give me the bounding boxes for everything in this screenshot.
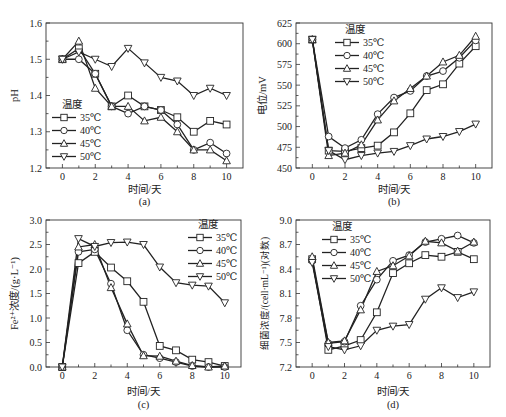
y-tick-label: 0.5 — [30, 337, 43, 348]
y-tick-label: 8.4 — [280, 264, 293, 275]
y-tick-label: 575 — [277, 59, 292, 70]
y-tick-label: 1.5 — [30, 288, 43, 299]
y-tick-label: 550 — [277, 80, 292, 91]
y-tick-label: 450 — [277, 163, 292, 174]
y-tick-label: 1.4 — [30, 90, 43, 101]
x-tick-label: 6 — [407, 370, 412, 381]
panel-b-potential-chart: 0246810450475500525550575600625时间/天电位/mV… — [256, 18, 492, 209]
square-marker-icon — [407, 110, 414, 117]
y-tick-label: 475 — [277, 142, 292, 153]
legend-label-35c: 35℃ — [350, 234, 371, 245]
x-tick-label: 0 — [310, 171, 315, 182]
triangle-down-marker-icon — [341, 157, 349, 164]
x-axis-label: 时间/天 — [377, 385, 411, 397]
square-marker-icon — [331, 236, 337, 242]
x-tick-label: 4 — [374, 370, 379, 381]
y-tick-label: 2.0 — [30, 264, 43, 275]
circle-marker-icon — [325, 133, 332, 140]
legend-title: 温度 — [345, 23, 366, 35]
panel-c-fe2-concentration-chart: 02468100.00.51.01.52.02.53.0时间/天Fe²⁺浓度/(… — [8, 215, 241, 412]
y-tick-label: 1.3 — [30, 126, 43, 137]
x-tick-label: 6 — [158, 171, 163, 182]
series-line-50c — [62, 48, 226, 95]
circle-marker-icon — [141, 103, 148, 110]
x-tick-label: 4 — [375, 171, 380, 182]
x-tick-label: 2 — [93, 171, 98, 182]
panel-caption: (a) — [139, 196, 151, 208]
triangle-down-marker-icon — [341, 347, 349, 354]
circle-marker-icon — [454, 232, 461, 239]
y-tick-label: 500 — [277, 121, 292, 132]
triangle-down-marker-icon — [190, 93, 198, 100]
legend-label-50c: 50℃ — [216, 271, 237, 282]
square-marker-icon — [75, 260, 82, 267]
figure-2x2-panels: 02468101.21.31.41.51.6时间/天pH(a)温度35℃40℃4… — [0, 0, 506, 417]
legend-label-35c: 35℃ — [216, 232, 237, 243]
legend: 温度35℃40℃45℃50℃ — [52, 98, 101, 162]
triangle-down-marker-icon — [438, 285, 446, 292]
square-marker-icon — [422, 252, 429, 259]
figure-canvas: 02468101.21.31.41.51.6时间/天pH(a)温度35℃40℃4… — [0, 0, 506, 417]
y-axis-label: Fe²⁺浓度/(g·L⁻¹) — [8, 257, 21, 330]
y-tick-label: 8.1 — [280, 288, 293, 299]
legend-title: 温度 — [332, 220, 353, 232]
square-marker-icon — [124, 278, 131, 285]
panel-d-bacteria-concentration-chart: 02468107.27.57.88.18.48.79.0时间/天细菌浓度/(ce… — [259, 215, 490, 412]
square-marker-icon — [156, 343, 163, 350]
legend-label-40c: 40℃ — [363, 50, 384, 61]
y-tick-label: 7.2 — [280, 362, 293, 373]
x-tick-label: 10 — [469, 370, 479, 381]
series-line-35c — [62, 252, 225, 367]
x-axis-label: 时间/天 — [128, 183, 162, 195]
triangle-down-marker-icon — [108, 64, 116, 71]
x-tick-label: 10 — [471, 171, 481, 182]
circle-marker-icon — [373, 276, 380, 283]
legend-label-45c: 45℃ — [363, 63, 384, 74]
legend-label-35c: 35℃ — [80, 112, 101, 123]
square-marker-icon — [108, 264, 115, 271]
y-tick-label: 1.6 — [30, 18, 43, 29]
x-tick-label: 2 — [342, 370, 347, 381]
square-marker-icon — [197, 234, 203, 240]
y-tick-label: 600 — [277, 38, 292, 49]
x-tick-label: 4 — [126, 171, 131, 182]
square-marker-icon — [190, 128, 197, 135]
triangle-down-marker-icon — [454, 295, 462, 302]
square-marker-icon — [374, 142, 381, 149]
x-tick-label: 6 — [408, 171, 413, 182]
legend-label-40c: 40℃ — [80, 125, 101, 136]
triangle-up-marker-icon — [472, 32, 480, 39]
circle-marker-icon — [92, 70, 99, 77]
legend: 温度35℃40℃45℃50℃ — [188, 218, 237, 282]
x-tick-label: 2 — [92, 370, 97, 381]
square-marker-icon — [470, 256, 477, 263]
square-marker-icon — [390, 270, 397, 277]
y-axis-label: pH — [9, 89, 20, 102]
y-tick-label: 2.5 — [30, 239, 43, 250]
y-tick-label: 7.5 — [280, 337, 293, 348]
circle-marker-icon — [124, 327, 131, 334]
square-marker-icon — [440, 81, 447, 88]
square-marker-icon — [406, 260, 413, 267]
x-tick-label: 6 — [157, 370, 162, 381]
square-marker-icon — [223, 121, 230, 128]
triangle-down-marker-icon — [221, 300, 229, 307]
legend-label-45c: 45℃ — [80, 138, 101, 149]
y-tick-label: 625 — [277, 18, 292, 29]
x-tick-label: 8 — [190, 370, 195, 381]
panel-caption: (c) — [138, 399, 150, 411]
circle-marker-icon — [61, 127, 67, 133]
square-marker-icon — [173, 347, 180, 354]
circle-marker-icon — [344, 52, 350, 58]
y-tick-label: 7.8 — [280, 313, 293, 324]
square-marker-icon — [391, 129, 398, 136]
legend-label-50c: 50℃ — [350, 273, 371, 284]
legend-label-40c: 40℃ — [216, 245, 237, 256]
y-axis-label: 细菌浓度/(cell·mL⁻¹)(对数) — [259, 237, 271, 350]
circle-marker-icon — [197, 247, 203, 253]
legend-label-45c: 45℃ — [216, 258, 237, 269]
legend-label-45c: 45℃ — [350, 260, 371, 271]
x-axis-label: 时间/天 — [127, 385, 161, 397]
y-tick-label: 8.7 — [280, 239, 293, 250]
x-tick-label: 10 — [220, 370, 230, 381]
